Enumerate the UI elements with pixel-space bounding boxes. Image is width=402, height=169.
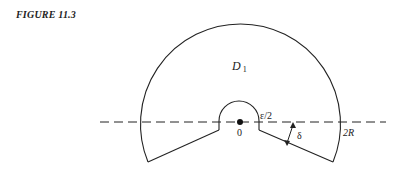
outer-radius-label: 2R: [343, 127, 354, 138]
small-radius-label: ε/2: [260, 110, 272, 121]
origin-label: 0: [237, 127, 242, 138]
contour-diagram: D1 0 ε/2 δ 2R: [0, 0, 402, 169]
delta-label: δ: [297, 130, 302, 141]
lower-left-edge: [148, 130, 219, 162]
origin-dot: [237, 119, 243, 125]
outer-arc: [141, 24, 341, 162]
lower-right-edge: [259, 130, 333, 162]
arrowhead-up-icon: [290, 122, 296, 128]
inner-arc: [219, 101, 259, 130]
region-label: D1: [231, 59, 247, 74]
